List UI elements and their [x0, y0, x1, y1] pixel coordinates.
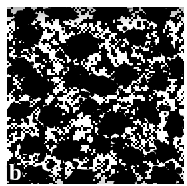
micrograph-plate	[7, 7, 184, 184]
micrograph-image	[7, 7, 184, 184]
panel-label: b	[9, 161, 22, 184]
figure-panel: b	[0, 0, 187, 186]
